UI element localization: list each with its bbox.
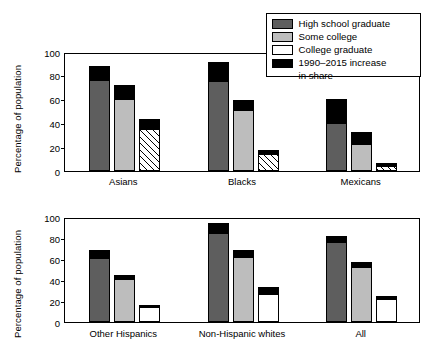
y-tick-label-80: 80	[49, 234, 60, 245]
y-tick-label-60: 60	[49, 255, 60, 266]
y-tick-label-0: 0	[55, 318, 60, 329]
bar-segment-increase	[258, 287, 279, 294]
bar-segment-hsg-base	[208, 233, 229, 322]
legend-label-some-college: Some college	[299, 31, 358, 43]
bar-sc	[114, 275, 135, 322]
bar-segment-increase	[376, 296, 397, 300]
x-tick-label: Non-Hispanic whites	[199, 328, 286, 339]
legend-label-high-school-graduate: High school graduate	[299, 18, 391, 30]
legend-swatch-some-college	[272, 32, 293, 42]
bar-segment-increase	[351, 132, 372, 145]
bar-segment-increase	[326, 236, 347, 243]
bars-container-bottom	[65, 219, 419, 322]
bar-hsg	[89, 66, 110, 171]
y-tick-label-60: 60	[49, 95, 60, 106]
bar-segment-increase	[376, 163, 397, 166]
legend-item-college-graduate: College graduate	[272, 44, 415, 57]
bar-hsg	[326, 99, 347, 170]
bar-segment-increase	[114, 275, 135, 280]
plot-area-bottom	[64, 218, 420, 323]
bar-segment-increase	[89, 250, 110, 259]
y-tick-label-0: 0	[55, 166, 60, 177]
bar-segment-increase	[233, 250, 254, 258]
bar-segment-sc-base	[114, 99, 135, 170]
bar-sc	[114, 85, 135, 171]
bar-segment-increase	[233, 100, 254, 111]
y-tick-label-80: 80	[49, 71, 60, 82]
bar-segment-increase	[139, 119, 160, 130]
y-tick-label-40: 40	[49, 276, 60, 287]
bar-segment-cg-base	[258, 154, 279, 171]
y-tick-label-20: 20	[49, 142, 60, 153]
legend-item-high-school-graduate: High school graduate	[272, 18, 415, 31]
bar-hsg	[326, 236, 347, 322]
bar-segment-increase	[139, 305, 160, 308]
bar-segment-hsg-base	[89, 258, 110, 322]
bar-cg	[376, 296, 397, 322]
bar-segment-sc-base	[233, 257, 254, 322]
bar-sc	[351, 132, 372, 170]
legend-swatch-increase-in-share	[272, 59, 293, 69]
bar-segment-hsg-base	[326, 242, 347, 322]
bar-group	[208, 219, 279, 322]
bar-cg	[258, 287, 279, 322]
bar-segment-cg-base	[258, 294, 279, 322]
x-tick-label: All	[355, 328, 366, 339]
bar-segment-sc-base	[233, 110, 254, 171]
legend-swatch-high-school-graduate	[272, 19, 293, 29]
bar-segment-increase	[258, 150, 279, 155]
bar-segment-cg-base	[376, 299, 397, 322]
x-tick-label: Other Hispanics	[90, 328, 158, 339]
chart-legend: High school graduate Some college Colleg…	[266, 13, 421, 77]
bar-sc	[233, 250, 254, 322]
bar-segment-sc-base	[351, 267, 372, 322]
bar-sc	[351, 262, 372, 322]
x-tick-label: Mexicans	[341, 176, 381, 187]
bar-group	[326, 219, 397, 322]
bar-hsg	[89, 250, 110, 322]
y-tick-label-40: 40	[49, 118, 60, 129]
bar-sc	[233, 100, 254, 170]
bar-segment-increase	[326, 99, 347, 124]
x-tick-label: Blacks	[228, 176, 256, 187]
legend-label-increase-in-share-line2: in share	[299, 70, 415, 82]
x-tick-label: Asians	[109, 176, 138, 187]
bar-group	[89, 219, 160, 322]
bar-segment-increase	[208, 62, 229, 82]
bar-segment-increase	[114, 85, 135, 100]
legend-item-some-college: Some college	[272, 31, 415, 44]
bar-cg	[376, 163, 397, 170]
bar-segment-sc-base	[351, 144, 372, 170]
y-axis-tick-labels-top: 020406080100	[30, 53, 60, 172]
bar-hsg	[208, 223, 229, 322]
y-axis-title-bottom: Percentage of population	[12, 230, 23, 338]
bar-segment-hsg-base	[208, 81, 229, 170]
bar-segment-sc-base	[114, 279, 135, 322]
y-tick-label-20: 20	[49, 297, 60, 308]
y-tick-label-100: 100	[44, 47, 60, 58]
y-axis-title-top: Percentage of population	[12, 65, 23, 173]
bar-cg	[139, 119, 160, 170]
legend-item-increase-in-share: 1990–2015 increase	[272, 57, 415, 70]
bar-hsg	[208, 62, 229, 170]
chart-panel-bottom: Percentage of population 020406080100 Ot…	[0, 190, 427, 362]
stacked-bar-figure: Percentage of population 020406080100 As…	[0, 0, 427, 362]
bar-segment-cg-base	[139, 307, 160, 322]
y-tick-label-100: 100	[44, 213, 60, 224]
bar-group	[89, 54, 160, 171]
bar-segment-increase	[351, 262, 372, 268]
bar-cg	[139, 305, 160, 322]
bar-segment-hsg-base	[89, 80, 110, 170]
bar-cg	[258, 150, 279, 170]
bar-segment-increase	[208, 223, 229, 233]
bar-segment-increase	[89, 66, 110, 81]
legend-swatch-college-graduate	[272, 45, 293, 55]
y-axis-tick-labels-bottom: 020406080100	[30, 218, 60, 323]
legend-label-increase-in-share: 1990–2015 increase	[299, 57, 387, 69]
bar-segment-hsg-base	[326, 123, 347, 171]
legend-label-college-graduate: College graduate	[299, 44, 373, 56]
bar-segment-cg-base	[139, 129, 160, 171]
